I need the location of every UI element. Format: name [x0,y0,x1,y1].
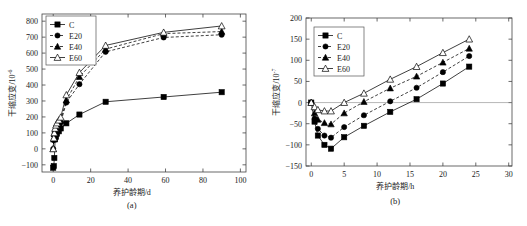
x-tick-label: 25 [471,170,479,179]
marker-triangle-open [465,36,472,42]
legend-label: E20 [337,43,350,52]
marker-square [161,94,166,99]
marker-square [51,163,56,168]
marker-triangle-open [439,49,446,55]
marker-square [413,97,418,102]
x-tick-label: 100 [234,176,246,185]
panel-b-caption: (b) [264,196,527,206]
marker-triangle [413,73,419,79]
x-tick-label: 30 [504,170,512,179]
y-tick-label: 400 [26,81,38,90]
y-tick-label: 600 [26,49,38,58]
y-tick-label: 300 [26,97,38,106]
marker-square [387,109,392,114]
marker-triangle [360,99,366,105]
y-tick-label: 200 [290,14,302,23]
y-axis-label: 干缩应变/10-7 [271,68,281,115]
marker-circle [321,133,326,138]
marker-circle [466,53,471,58]
marker-square [440,81,445,86]
x-tick-label: 5 [342,170,346,179]
legend: CE20E40E60 [46,16,96,65]
marker-square [55,22,60,27]
legend-label: E40 [69,43,82,52]
y-tick-label: 100 [290,56,302,65]
marker-circle [387,99,392,104]
y-tick-label: 500 [26,65,38,74]
x-tick-label: 20 [87,176,95,185]
panel-a-x-axis-label: 养护龄期/d [0,186,264,197]
y-axis-label-exponent: -7 [271,68,277,73]
marker-triangle-open [218,23,225,29]
y-axis-label: 干缩应变/10-6 [7,69,17,116]
marker-square [321,142,326,147]
y-tick-label: 0 [34,145,38,154]
marker-triangle-open [63,92,70,98]
y-tick-label: 0 [298,99,302,108]
marker-circle [341,124,346,129]
marker-circle [322,44,327,49]
marker-triangle [466,45,472,51]
panel-b-plot: 051015202530−150−100−50050100150200干缩应变/… [264,0,527,226]
y-tick-label: −100 [21,161,38,170]
series-line [53,92,221,167]
marker-circle [328,135,333,140]
x-tick-label: 60 [162,176,170,185]
x-tick-label: 40 [124,176,132,185]
marker-square [77,112,82,117]
legend-label: E60 [69,54,82,63]
series-C [51,90,225,171]
x-tick-label: 0 [309,170,313,179]
y-tick-label: −150 [285,162,302,171]
panel-b: 051015202530−150−100−50050100150200干缩应变/… [264,0,527,226]
legend-label: E40 [337,54,350,63]
marker-circle [315,126,320,131]
y-tick-label: 800 [26,17,38,26]
x-tick-label: 10 [373,170,381,179]
marker-square [103,99,108,104]
y-tick-label: 50 [294,77,302,86]
marker-square [315,133,320,138]
y-axis-label-exponent: -6 [7,69,13,74]
figure-container: 020406080100−100010020030040050060070080… [0,0,527,226]
y-tick-label: 200 [26,113,38,122]
legend-label: C [69,21,74,30]
marker-triangle-open [386,76,393,82]
y-tick-label: −100 [285,141,302,150]
y-tick-label: 150 [290,35,302,44]
panel-a: 020406080100−100010020030040050060070080… [0,0,264,226]
y-tick-label: −50 [289,120,302,129]
marker-square [52,155,57,160]
y-tick-label: 700 [26,33,38,42]
marker-square [361,123,366,128]
marker-square [328,146,333,151]
marker-circle [413,85,418,90]
legend: CE20E40E60 [314,27,364,76]
x-tick-label: 20 [438,170,446,179]
panel-b-x-axis-label: 养护龄期/h [264,180,527,191]
x-tick-label: 15 [405,170,413,179]
marker-square [466,64,471,69]
marker-circle [55,33,60,38]
marker-square [219,90,224,95]
y-tick-label: 100 [26,129,38,138]
panel-a-caption: (a) [0,200,264,210]
marker-square [64,121,69,126]
marker-triangle [439,59,445,65]
marker-square [322,33,327,38]
y-axis-label-group: 干缩应变/10-7 [271,68,281,115]
marker-triangle [321,120,327,126]
x-tick-label: 80 [199,176,207,185]
marker-square [341,135,346,140]
marker-triangle [340,110,346,116]
marker-circle [361,113,366,118]
legend-label: E20 [69,32,82,41]
marker-triangle [387,85,393,91]
marker-circle [77,82,82,87]
marker-circle [440,70,445,75]
legend-label: E60 [337,65,350,74]
y-axis-label-group: 干缩应变/10-6 [7,69,17,116]
marker-triangle-open [360,90,367,96]
x-tick-label: 0 [51,176,55,185]
legend-label: C [337,32,342,41]
